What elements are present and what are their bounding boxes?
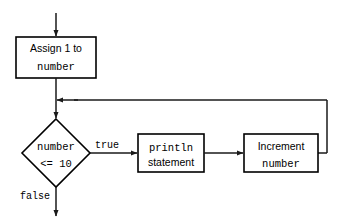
node-increment-line1: Increment: [258, 140, 305, 152]
node-println-line1: println: [149, 142, 193, 154]
node-assign-line1: Assign 1 to: [30, 42, 82, 54]
node-assign-line2: number: [37, 61, 75, 73]
node-condition-line1: number: [37, 141, 75, 153]
flowchart-canvas: Assign 1 to number number <= 10 true pri…: [0, 0, 343, 221]
node-condition-diamond: [22, 119, 90, 187]
edge-label-false: false: [20, 191, 50, 202]
edge-label-true: true: [95, 140, 119, 151]
node-increment-line2: number: [262, 158, 300, 170]
node-println-line2: statement: [148, 156, 194, 168]
node-condition-line2: <= 10: [40, 158, 72, 170]
flowchart-svg: Assign 1 to number number <= 10 true pri…: [0, 0, 343, 221]
